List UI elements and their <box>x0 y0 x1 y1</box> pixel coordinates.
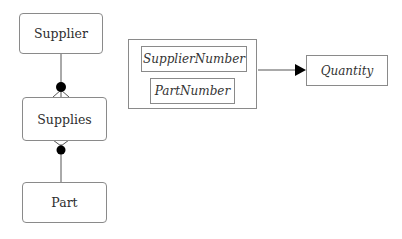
attribute-label: SupplierNumber <box>143 52 245 66</box>
attribute-label: Quantity <box>321 64 374 78</box>
entity-label: Supplier <box>34 26 88 41</box>
cardinality-dot-bottom <box>57 146 66 155</box>
attribute-quantity[interactable]: Quantity <box>306 55 388 86</box>
attribute-part-number[interactable]: PartNumber <box>150 78 235 104</box>
entity-label: Supplies <box>37 112 91 127</box>
attribute-label: PartNumber <box>155 84 230 98</box>
entity-supplies[interactable]: Supplies <box>22 97 107 141</box>
diagram-canvas: Supplier Supplies Part SupplierNumber Pa… <box>0 0 402 239</box>
entity-supplier[interactable]: Supplier <box>19 13 103 54</box>
entity-part[interactable]: Part <box>22 182 107 223</box>
arrowhead-icon <box>295 64 306 76</box>
entity-label: Part <box>51 195 77 210</box>
attribute-supplier-number[interactable]: SupplierNumber <box>141 46 247 72</box>
cardinality-dot-top <box>56 82 66 92</box>
